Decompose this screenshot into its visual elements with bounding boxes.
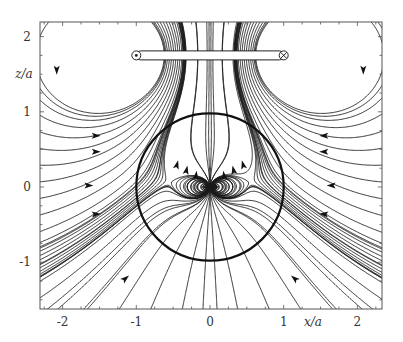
field-line <box>33 13 180 217</box>
field-line <box>253 14 391 128</box>
arrow-icon <box>54 66 60 75</box>
current-out-icon <box>132 51 141 60</box>
y-tick-label: 2 <box>23 30 31 44</box>
field-line <box>237 13 391 246</box>
arrow-icon <box>173 160 181 170</box>
y-tick-label: 1 <box>23 105 31 119</box>
current-in-icon <box>279 51 288 60</box>
field-line-diagram: -2-1012210-1 x/a z/a <box>0 0 403 342</box>
arrow-icon <box>230 165 238 175</box>
field-line <box>251 14 391 138</box>
field-line <box>210 186 342 315</box>
ring-cross-section-bar <box>136 51 283 60</box>
arrow-icon <box>289 273 300 283</box>
field-line <box>256 14 384 113</box>
field-line <box>33 14 169 138</box>
field-line <box>78 186 210 315</box>
arrow-icon <box>183 165 191 175</box>
x-tick-label: 0 <box>206 315 214 329</box>
x-tick-label: -2 <box>57 315 69 329</box>
arrow-icon <box>319 149 328 155</box>
x-tick-label: 1 <box>280 315 288 329</box>
field-line <box>33 14 165 116</box>
y-axis-label: z/a <box>14 67 33 81</box>
arrow-icon <box>92 149 101 155</box>
arrow-icon <box>239 160 247 170</box>
arrow-icon <box>120 273 131 283</box>
current-ring <box>132 51 288 60</box>
y-tick-label: -1 <box>19 255 31 269</box>
x-tick-label: -1 <box>130 315 142 329</box>
field-line <box>254 14 391 121</box>
y-tick-label: 0 <box>23 180 31 194</box>
field-line <box>33 14 166 121</box>
field-line <box>255 14 390 117</box>
field-line <box>36 14 164 113</box>
field-line <box>33 14 168 128</box>
arrow-icon <box>360 66 366 75</box>
x-tick-label: 2 <box>354 315 362 329</box>
field-line <box>33 13 184 254</box>
field-line <box>236 13 391 256</box>
x-axis-label: x/a <box>304 315 322 329</box>
